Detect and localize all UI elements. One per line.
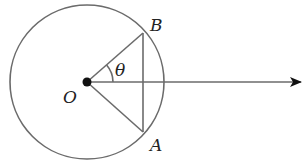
center-point-O [83, 78, 92, 87]
circle-chord-diagram: B A O θ [0, 0, 304, 168]
label-theta: θ [115, 60, 125, 80]
label-A: A [148, 135, 162, 155]
label-O: O [63, 87, 77, 107]
segment-OA [87, 82, 143, 132]
angle-theta-arc [107, 65, 113, 82]
label-B: B [149, 15, 163, 35]
